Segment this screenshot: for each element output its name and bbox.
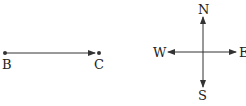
point-c-dot xyxy=(97,51,101,55)
label-b: B xyxy=(2,57,12,72)
label-south: S xyxy=(198,88,207,103)
ray-bc: B C xyxy=(2,51,104,72)
diagram-canvas: B C N S W E xyxy=(0,0,246,106)
label-c: C xyxy=(94,57,104,72)
label-west: W xyxy=(153,45,167,60)
label-east: E xyxy=(239,45,246,60)
compass-rose: N S W E xyxy=(153,2,246,103)
point-b-dot xyxy=(3,51,7,55)
label-north: N xyxy=(198,2,209,17)
